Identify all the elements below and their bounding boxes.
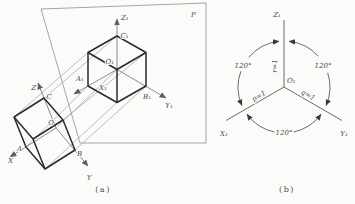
figure-svg: Z₁ C₁ P O₁ A₁ X₁ B₁ Y₁ Z C O A X B Y (a)… — [0, 0, 355, 204]
label-axis-z: Z — [30, 84, 36, 92]
label-b-axis-z1: Z₁ — [272, 11, 281, 19]
label-point-a1: A₁ — [75, 75, 84, 83]
label-point-c1: C₁ — [121, 32, 129, 40]
isometric-axes — [226, 20, 342, 121]
label-point-b: B — [76, 150, 82, 158]
label-angle-bottom: 120° — [276, 129, 293, 137]
caption-b: (b) — [279, 185, 295, 194]
label-point-c: C — [47, 93, 53, 101]
b-axis-x1-line — [226, 87, 284, 121]
label-angle-upper-right: 120° — [315, 62, 332, 70]
label-point-o: O — [48, 119, 54, 127]
label-axis-x1: X₁ — [98, 84, 107, 92]
label-axis-x: X — [7, 157, 14, 165]
label-axis-z1: Z₁ — [120, 14, 129, 22]
label-axis-y: Y — [87, 174, 93, 182]
label-b-origin-o1: O₁ — [287, 77, 296, 85]
b-axis-y1-line — [284, 87, 342, 121]
label-point-b1: B₁ — [142, 93, 151, 101]
label-coefficient-r: r=1 — [271, 59, 279, 73]
label-point-a: A — [16, 145, 22, 153]
panel-a-labels: Z₁ C₁ P O₁ A₁ X₁ B₁ Y₁ Z C O A X B Y (a) — [7, 11, 196, 194]
caption-a: (a) — [95, 185, 111, 194]
label-angle-upper-left: 120° — [235, 62, 252, 70]
axonometric-projection-figure: Z₁ C₁ P O₁ A₁ X₁ B₁ Y₁ Z C O A X B Y (a)… — [0, 0, 355, 204]
label-plane-p: P — [190, 11, 196, 19]
label-coefficient-q: q=1 — [300, 88, 317, 102]
label-point-o1: O₁ — [105, 58, 114, 66]
label-b-axis-y1: Y₁ — [340, 130, 348, 138]
label-axis-y1: Y₁ — [165, 102, 173, 110]
panel-b-labels: Z₁ X₁ Y₁ O₁ 120° 120° 120° r=1 p=1 q=1 (… — [219, 11, 348, 194]
axis-y1-line — [117, 70, 166, 99]
label-b-axis-x1: X₁ — [219, 130, 228, 138]
